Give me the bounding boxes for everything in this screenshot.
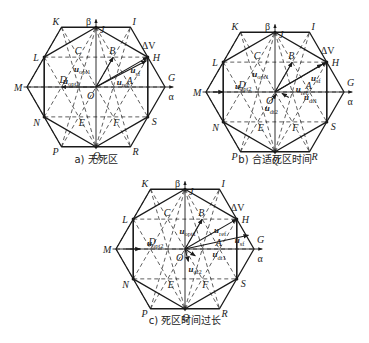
vertex-dot xyxy=(235,277,238,280)
point-label-S: S xyxy=(152,116,157,127)
point-label-B: B xyxy=(198,207,204,218)
point-label-M: M xyxy=(102,244,112,255)
vertex-dot xyxy=(43,115,46,118)
vertex-dot xyxy=(183,307,186,310)
vector-label-u_ref: uref xyxy=(214,225,227,237)
vertex-dot xyxy=(183,188,186,191)
beta-axis-label: β xyxy=(265,21,270,32)
point-label-K: K xyxy=(141,178,150,189)
alpha-axis-label: α xyxy=(347,96,353,107)
vector-label-u_opt1: uopt1 xyxy=(252,69,269,81)
vector-label-u_sf: usf xyxy=(131,65,142,77)
point-label-F: F xyxy=(201,279,209,290)
vertex-dot xyxy=(146,115,149,118)
point-label-P: P xyxy=(141,308,148,319)
point-label-N: N xyxy=(211,122,220,133)
caption-c: c) 死区时间过长 xyxy=(149,314,222,326)
lattice-line xyxy=(133,219,185,309)
point-label-L: L xyxy=(121,214,128,225)
vertex-dot xyxy=(222,61,225,64)
alpha-axis-label: α xyxy=(168,91,174,102)
point-label-G: G xyxy=(168,72,175,83)
vector-u_dt1 xyxy=(282,93,289,97)
point-label-R: R xyxy=(221,308,228,319)
beta-axis-label: β xyxy=(175,178,180,189)
vertex-dot xyxy=(132,218,135,221)
point-label-M: M xyxy=(13,82,23,93)
point-label-L: L xyxy=(211,57,218,68)
vector-label-u_dt2: udt2 xyxy=(188,264,201,276)
point-label-K: K xyxy=(52,16,61,27)
vertex-dot xyxy=(222,120,225,123)
vertex-dot xyxy=(94,26,97,29)
point-label-B: B xyxy=(288,50,294,61)
vertex-dot xyxy=(94,145,97,148)
lattice-line xyxy=(275,62,327,152)
point-label-P: P xyxy=(231,151,238,162)
point-label-H: H xyxy=(241,214,250,225)
point-label-H: H xyxy=(152,52,161,63)
panel-a-no-deadtime: αβOABCDEFGHIJKLMNPQRSΔVurefuopt1uopt2usf… xyxy=(13,16,175,165)
point-label-N: N xyxy=(32,117,41,128)
point-label-O: O xyxy=(176,252,183,263)
caption-b: b) 合适死区时间 xyxy=(238,153,311,165)
point-label-C: C xyxy=(254,50,261,61)
point-label-O: O xyxy=(87,90,94,101)
point-label-G: G xyxy=(347,77,354,88)
vertex-dot xyxy=(132,277,135,280)
point-label-J: J xyxy=(279,29,284,40)
point-label-R: R xyxy=(132,146,139,157)
point-label-J: J xyxy=(100,24,105,35)
delta-v-label: ΔV xyxy=(231,202,245,213)
vertex-dot xyxy=(273,150,276,153)
point-label-E: E xyxy=(257,122,264,133)
point-label-F: F xyxy=(291,122,299,133)
point-label-S: S xyxy=(331,121,336,132)
point-label-B: B xyxy=(109,45,115,56)
vector-label-u_opt2: uopt2 xyxy=(63,76,80,88)
point-label-M: M xyxy=(192,87,202,98)
vertex-dot xyxy=(325,120,328,123)
point-label-E: E xyxy=(78,117,85,128)
vector-label-u_opt1: uopt1 xyxy=(179,226,196,238)
point-label-G: G xyxy=(257,234,264,245)
point-label-C: C xyxy=(164,207,171,218)
svm-vector-diagram: αβOABCDEFGHIJKLMNPQRSΔVurefuopt1uopt2usf… xyxy=(0,0,369,343)
point-label-K: K xyxy=(231,21,240,32)
delta-v-label: ΔV xyxy=(142,40,156,51)
point-label-I: I xyxy=(311,21,316,32)
point-label-S: S xyxy=(241,278,246,289)
lattice-line xyxy=(133,189,185,279)
point-label-J: J xyxy=(189,186,194,197)
beta-axis-label: β xyxy=(86,16,91,27)
vector-label-u_sf: usf xyxy=(311,73,322,85)
point-label-I: I xyxy=(132,16,137,27)
vertex-dot xyxy=(273,31,276,34)
delta-v-label: ΔV xyxy=(321,45,335,56)
point-label-H: H xyxy=(331,57,340,68)
caption-a: a) 无死区 xyxy=(74,154,117,165)
point-label-F: F xyxy=(112,117,120,128)
point-label-I: I xyxy=(221,178,226,189)
vector-label-u_opt1: uopt1 xyxy=(74,64,91,76)
vector-label-u_dt1: udt1 xyxy=(213,249,226,261)
point-label-L: L xyxy=(32,52,39,63)
panel-b-suitable-deadtime: αβOABCDEFGHIJKLMNPQRSΔVurefuopt1uopt2usf… xyxy=(192,21,354,166)
vertex-dot xyxy=(43,56,46,59)
panel-c-excessive-deadtime: αβOABCDEFGHIJKLMNPQRSΔVurefuopt1uopt2usf… xyxy=(102,178,264,326)
point-label-P: P xyxy=(52,146,59,157)
point-label-N: N xyxy=(121,279,130,290)
alpha-axis-label: α xyxy=(257,253,263,264)
point-label-E: E xyxy=(167,279,174,290)
point-label-C: C xyxy=(75,45,82,56)
